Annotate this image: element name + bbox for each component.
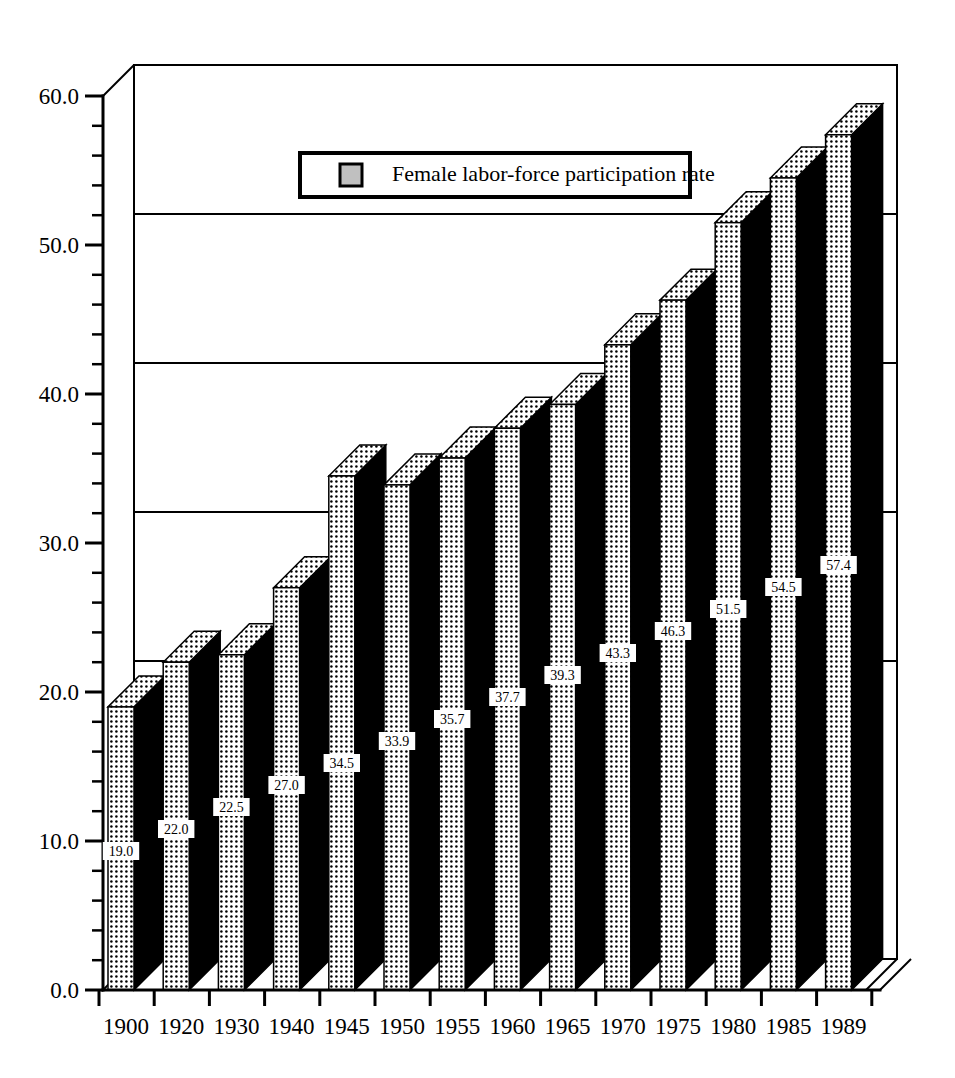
chart-canvas: 0.010.020.030.040.050.060.0 190019201930… xyxy=(0,0,955,1078)
x-axis-tick-label: 1900 xyxy=(103,1014,149,1039)
x-axis-tick-label: 1970 xyxy=(600,1014,646,1039)
bar-value-label: 22.0 xyxy=(164,822,189,837)
bar-value-label: 46.3 xyxy=(661,624,686,639)
bar-value-label: 33.9 xyxy=(385,734,410,749)
x-axis: 1900192019301940194519501955196019651970… xyxy=(99,990,880,1039)
y-axis-tick-label: 30.0 xyxy=(39,531,79,556)
y-axis-tick-label: 40.0 xyxy=(39,382,79,407)
bar xyxy=(715,192,772,990)
bar-front-face xyxy=(494,428,520,990)
bar-side-face xyxy=(852,104,883,990)
bar-value-label: 57.4 xyxy=(826,558,851,573)
x-axis-tick-label: 1945 xyxy=(324,1014,370,1039)
x-axis-tick-label: 1989 xyxy=(821,1014,867,1039)
bar xyxy=(826,104,883,990)
y-axis-tick-label: 0.0 xyxy=(50,978,79,1003)
bar-value-label: 22.5 xyxy=(219,800,244,815)
bar xyxy=(439,427,496,990)
x-axis-tick-label: 1985 xyxy=(765,1014,811,1039)
x-axis-tick-label: 1965 xyxy=(545,1014,591,1039)
bar-value-label: 34.5 xyxy=(330,756,355,771)
bar-side-face xyxy=(355,445,386,990)
bar-chart-figure: 0.010.020.030.040.050.060.0 190019201930… xyxy=(0,0,955,1078)
bar-front-face xyxy=(660,300,686,990)
bars-group xyxy=(108,104,883,990)
x-axis-tick-label: 1930 xyxy=(213,1014,259,1039)
bar-value-label: 51.5 xyxy=(716,602,741,617)
bar-value-label: 37.7 xyxy=(495,690,520,705)
bar xyxy=(163,631,220,990)
bar-front-face xyxy=(605,345,631,990)
bar xyxy=(329,445,386,990)
bar-front-face xyxy=(329,476,355,990)
y-axis-tick-label: 10.0 xyxy=(39,829,79,854)
bar-side-face xyxy=(465,427,496,990)
legend-swatch-icon xyxy=(340,164,362,186)
bar-side-face xyxy=(300,557,331,990)
bar-value-label: 43.3 xyxy=(606,646,631,661)
x-axis-tick-label: 1940 xyxy=(269,1014,315,1039)
bar xyxy=(770,147,827,990)
x-axis-tick-label: 1950 xyxy=(379,1014,425,1039)
x-axis-tick-label: 1980 xyxy=(710,1014,756,1039)
x-axis-tick-label: 1975 xyxy=(655,1014,701,1039)
bar-value-label: 19.0 xyxy=(109,844,134,859)
wall-diagonal-top-left xyxy=(103,65,134,96)
bar-value-label: 54.5 xyxy=(771,580,796,595)
bar xyxy=(108,676,165,990)
legend-label: Female labor-force participation rate xyxy=(392,161,715,186)
y-axis: 0.010.020.030.040.050.060.0 xyxy=(39,84,103,1003)
bar xyxy=(384,454,441,990)
bar-value-label: 27.0 xyxy=(274,778,299,793)
bar-value-label: 39.3 xyxy=(550,668,575,683)
y-axis-tick-label: 60.0 xyxy=(39,84,79,109)
floor-right-edge xyxy=(880,959,911,990)
bar-front-face xyxy=(550,404,576,990)
chart-legend: Female labor-force participation rate xyxy=(300,153,715,197)
x-axis-tick-label: 1955 xyxy=(434,1014,480,1039)
bar xyxy=(274,557,331,990)
y-axis-tick-label: 20.0 xyxy=(39,680,79,705)
bar-value-label: 35.7 xyxy=(440,712,465,727)
x-axis-tick-label: 1920 xyxy=(158,1014,204,1039)
x-axis-tick-label: 1960 xyxy=(489,1014,535,1039)
bar-front-face xyxy=(218,655,244,990)
y-axis-tick-label: 50.0 xyxy=(39,233,79,258)
